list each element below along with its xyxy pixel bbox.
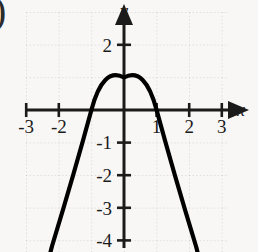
- y-axis-label: y: [118, 1, 128, 21]
- y-tick-label-neg1: -1: [96, 132, 112, 153]
- y-tick-label-neg3: -3: [96, 198, 112, 219]
- x-tick-label-neg3: -3: [18, 116, 34, 137]
- coordinate-plane-svg: -3 -2 1 2 3 2 -1 -2 -3 -4 x y: [0, 0, 258, 252]
- graph-figure: ): [0, 0, 258, 252]
- x-tick-label-2: 2: [184, 116, 194, 137]
- x-tick-label-3: 3: [217, 116, 227, 137]
- y-tick-label-neg4: -4: [96, 230, 112, 251]
- y-tick-label-2: 2: [103, 35, 113, 56]
- y-tick-label-neg2: -2: [96, 165, 112, 186]
- x-tick-label-neg2: -2: [51, 116, 67, 137]
- x-axis-label: x: [236, 100, 245, 120]
